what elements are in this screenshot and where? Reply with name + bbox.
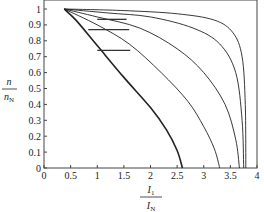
svg-text:nN: nN [4, 91, 14, 104]
data-series [64, 9, 246, 168]
y-tick-label: 1 [36, 4, 41, 15]
curve-line [64, 9, 239, 168]
x-tick-label: 2.5 [171, 170, 184, 181]
x-tick-label: 3.5 [224, 170, 237, 181]
x-tick-label: 2 [148, 170, 153, 181]
x-tick-label: 3 [201, 170, 206, 181]
svg-text:I1: I1 [147, 184, 155, 197]
y-tick-label: 0.8 [29, 35, 42, 46]
y-tick-label: 0.3 [29, 115, 42, 126]
horizontal-segments [88, 19, 130, 50]
y-tick-label: 0.2 [29, 131, 42, 142]
y-tick-label: 0.5 [29, 83, 42, 94]
curve-line [64, 9, 182, 168]
x-tick-label: 1.5 [118, 170, 131, 181]
y-tick-label: 0.7 [29, 51, 42, 62]
y-tick-label: 0.9 [29, 19, 42, 30]
x-axis-label: I1 IN [140, 184, 162, 212]
x-tick-label: 0 [42, 170, 47, 181]
svg-text:n: n [7, 76, 12, 87]
x-axis-ticks: 00.511.522.533.54 [42, 165, 260, 181]
chart: 00.511.522.533.54 00.10.20.30.40.50.60.7… [0, 0, 264, 212]
y-tick-label: 0.4 [29, 99, 42, 110]
y-axis-label: n nN [2, 76, 17, 104]
curve-line [64, 9, 243, 168]
x-tick-label: 0.5 [64, 170, 77, 181]
x-tick-label: 4 [255, 170, 260, 181]
x-tick-label: 1 [95, 170, 100, 181]
svg-text:IN: IN [146, 200, 155, 212]
y-tick-label: 0.1 [29, 147, 42, 158]
curve-line [64, 9, 246, 168]
y-tick-label: 0 [36, 163, 41, 174]
y-tick-label: 0.6 [29, 67, 42, 78]
